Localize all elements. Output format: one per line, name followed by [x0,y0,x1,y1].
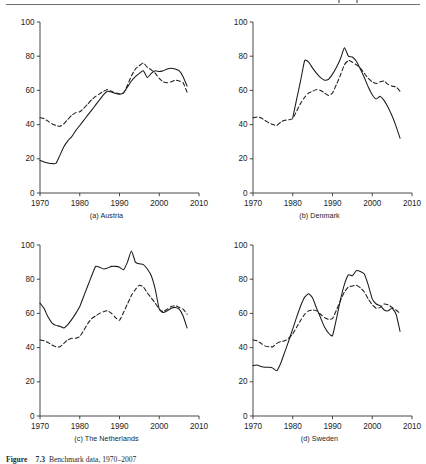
svg-text:1990: 1990 [323,422,342,431]
svg-text:100: 100 [234,241,248,250]
panel-caption-c: (c) The Netherlands [0,434,213,443]
panel-a-austria: 02040608010019701980199020002010 (a) Aus… [0,8,213,231]
panel-grid: 02040608010019701980199020002010 (a) Aus… [0,8,426,454]
chart-svg-d: 02040608010019701980199020002010 [213,231,426,454]
panel-c-netherlands: 02040608010019701980199020002010 (c) The… [0,231,213,454]
plot-area-d: 02040608010019701980199020002010 [213,231,426,454]
svg-text:60: 60 [25,86,35,95]
svg-text:2000: 2000 [363,199,382,208]
svg-text:20: 20 [25,154,35,163]
svg-text:20: 20 [25,377,35,386]
svg-text:1980: 1980 [284,422,303,431]
svg-text:2010: 2010 [190,199,209,208]
panel-caption-a: (a) Austria [0,211,213,220]
svg-text:60: 60 [238,86,248,95]
svg-text:100: 100 [21,18,35,27]
svg-text:2000: 2000 [363,422,382,431]
series-dashed [253,285,400,347]
svg-text:2010: 2010 [403,422,422,431]
svg-text:1970: 1970 [31,422,50,431]
svg-text:2000: 2000 [150,199,169,208]
chart-svg-a: 02040608010019701980199020002010 [0,8,213,231]
svg-text:0: 0 [30,189,35,198]
chart-svg-b: 02040608010019701980199020002010 [213,8,426,231]
plot-area-b: 02040608010019701980199020002010 [213,8,426,231]
header-rule [6,4,420,5]
svg-text:1980: 1980 [71,422,90,431]
plot-area-a: 02040608010019701980199020002010 [0,8,213,231]
panel-caption-d: (d) Sweden [213,434,426,443]
running-head-ghost [330,0,390,3]
svg-text:100: 100 [234,18,248,27]
svg-text:1990: 1990 [323,199,342,208]
svg-text:60: 60 [238,309,248,318]
svg-text:20: 20 [238,154,248,163]
svg-text:1990: 1990 [110,422,129,431]
svg-text:1970: 1970 [244,422,263,431]
svg-text:40: 40 [25,343,35,352]
svg-text:80: 80 [238,275,248,284]
svg-text:1980: 1980 [71,199,90,208]
figure-caption-text: Benchmark data, 1970–2007 [49,455,137,464]
svg-text:80: 80 [25,52,35,61]
plot-area-c: 02040608010019701980199020002010 [0,231,213,454]
svg-text:40: 40 [238,120,248,129]
chart-svg-c: 02040608010019701980199020002010 [0,231,213,454]
svg-text:60: 60 [25,309,35,318]
svg-text:2010: 2010 [403,199,422,208]
svg-text:0: 0 [243,189,248,198]
svg-text:40: 40 [238,343,248,352]
svg-text:1990: 1990 [110,199,129,208]
panel-d-sweden: 02040608010019701980199020002010 (d) Swe… [213,231,426,454]
figure-caption-label: Figure [6,455,27,464]
svg-text:80: 80 [25,275,35,284]
series-dashed [253,60,400,125]
series-dashed [40,63,187,126]
series-dashed [40,285,187,347]
figure-caption-number: 7.3 [36,455,46,464]
svg-text:0: 0 [243,412,248,421]
svg-text:100: 100 [21,241,35,250]
svg-text:1980: 1980 [284,199,303,208]
svg-text:40: 40 [25,120,35,129]
svg-text:1970: 1970 [244,199,263,208]
panel-b-denmark: 02040608010019701980199020002010 (b) Den… [213,8,426,231]
svg-text:2000: 2000 [150,422,169,431]
svg-text:80: 80 [238,52,248,61]
svg-text:0: 0 [30,412,35,421]
panel-caption-b: (b) Denmark [213,211,426,220]
svg-text:2010: 2010 [190,422,209,431]
svg-text:1970: 1970 [31,199,50,208]
series-solid [253,271,400,371]
svg-text:20: 20 [238,377,248,386]
figure-caption: Figure 7.3 Benchmark data, 1970–2007 [6,455,420,464]
series-solid [40,251,187,328]
